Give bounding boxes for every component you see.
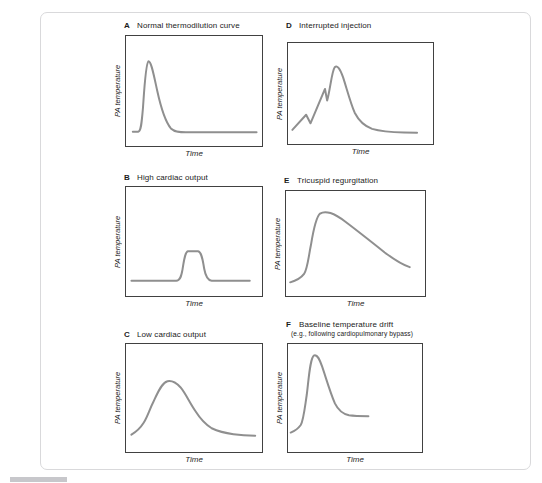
- panel-b-title: B High cardiac output: [124, 173, 208, 183]
- panel-f-x-axis-label: Time: [287, 455, 423, 464]
- panel-d-y-axis-label: PA temperature: [275, 42, 284, 145]
- panel-c-y-axis-label: PA temperature: [113, 343, 122, 453]
- panel-f-plot-box: [287, 343, 423, 453]
- panel-e-title: E Tricuspid regurgitation: [284, 176, 378, 186]
- panel-f-y-axis-label: PA temperature: [275, 343, 284, 453]
- panel-e-plot: [286, 191, 425, 296]
- panel-f-letter: F: [286, 320, 299, 330]
- panel-d-title-text: Interrupted injection: [299, 21, 371, 31]
- panel-d-x-axis-label: Time: [287, 147, 434, 156]
- panel-a: A Normal thermodilution curve PA tempera…: [125, 35, 263, 147]
- panel-e-letter: E: [284, 176, 297, 186]
- panel-b-x-axis-label: Time: [125, 299, 263, 308]
- panel-e-plot-box: [285, 190, 426, 297]
- panel-a-y-axis-label: PA temperature: [113, 35, 122, 147]
- panel-e-title-text: Tricuspid regurgitation: [297, 176, 378, 186]
- panel-e-y-axis-label: PA temperature: [273, 190, 282, 297]
- panel-a-x-axis-label: Time: [125, 149, 263, 158]
- thermodilution-curve-tricuspid-regurgitation: [290, 212, 410, 282]
- panel-c-plot-box: [125, 343, 263, 453]
- panel-f-subtitle: (e.g., following cardiopulmonary bypass): [286, 330, 413, 338]
- panel-c-x-axis-label: Time: [125, 455, 263, 464]
- thermodilution-curve-low-output: [131, 381, 255, 436]
- panel-f: F Baseline temperature drift (e.g., foll…: [287, 343, 423, 453]
- panel-e: E Tricuspid regurgitation PA temperature…: [285, 190, 426, 297]
- panel-b-y-axis-label: PA temperature: [113, 186, 122, 297]
- panel-b-plot: [126, 187, 262, 296]
- panel-c-title-text: Low cardiac output: [137, 330, 206, 340]
- thermodilution-curve-high-output: [131, 251, 249, 280]
- panel-a-plot: [126, 36, 262, 146]
- panel-b-letter: B: [124, 173, 137, 183]
- panel-c: C Low cardiac output PA temperature Time: [125, 343, 263, 453]
- panel-f-title: F Baseline temperature drift (e.g., foll…: [286, 320, 413, 338]
- panel-d: D Interrupted injection PA temperature T…: [287, 42, 434, 145]
- panel-a-title: A Normal thermodilution curve: [124, 21, 240, 31]
- thermodilution-curve-baseline-drift: [291, 355, 369, 432]
- panel-a-plot-box: [125, 35, 263, 147]
- thermodilution-curve-interrupted: [292, 67, 417, 133]
- panel-a-letter: A: [124, 21, 137, 31]
- panel-f-plot: [288, 344, 422, 452]
- panel-c-letter: C: [124, 330, 137, 340]
- panel-c-title: C Low cardiac output: [124, 330, 206, 340]
- panel-f-title-text: Baseline temperature drift: [299, 320, 393, 330]
- panel-d-plot: [288, 43, 433, 144]
- panel-b: B High cardiac output PA temperature Tim…: [125, 186, 263, 297]
- panel-d-plot-box: [287, 42, 434, 145]
- panel-a-title-text: Normal thermodilution curve: [137, 21, 240, 31]
- panel-c-plot: [126, 344, 262, 452]
- panel-b-plot-box: [125, 186, 263, 297]
- thermodilution-curve-normal: [133, 61, 257, 132]
- panel-d-letter: D: [286, 21, 299, 31]
- panel-e-x-axis-label: Time: [285, 299, 426, 308]
- panel-d-title: D Interrupted injection: [286, 21, 371, 31]
- panel-b-title-text: High cardiac output: [137, 173, 208, 183]
- cropped-element-bar: [10, 477, 67, 482]
